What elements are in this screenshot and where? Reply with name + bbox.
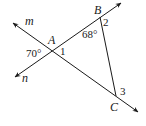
segment-bc (100, 17, 116, 96)
label-point-b: B (94, 3, 102, 17)
label-angle-3: 3 (120, 85, 126, 97)
label-point-a: A (47, 33, 56, 47)
label-m: m (25, 14, 34, 28)
label-angle-68: 68° (82, 28, 97, 40)
label-angle-1: 1 (60, 45, 66, 57)
line-m (13, 23, 138, 112)
label-n: n (22, 71, 28, 85)
label-point-c: C (110, 100, 119, 114)
geometry-figure: m n A B C 70° 68° 1 2 3 (0, 0, 146, 126)
label-angle-70: 70° (26, 47, 41, 59)
label-angle-2: 2 (103, 16, 109, 28)
